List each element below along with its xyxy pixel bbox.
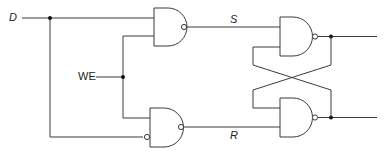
we-label: WE bbox=[78, 71, 96, 82]
d-label: D bbox=[9, 12, 17, 23]
circuit-diagram: D WE S R bbox=[0, 0, 388, 155]
nand-gate-latch-bottom bbox=[280, 98, 313, 137]
we-junction bbox=[121, 75, 125, 79]
circuit-schematic bbox=[0, 0, 388, 155]
inverter-bubble-latch-bottom bbox=[312, 115, 317, 120]
inverter-bubble-bottom bbox=[178, 124, 183, 129]
we-branch-wire bbox=[123, 36, 154, 118]
inverter-bubble-d-input bbox=[144, 134, 149, 139]
inverter-bubble-latch-top bbox=[312, 34, 317, 39]
s-label: S bbox=[230, 14, 237, 25]
r-label: R bbox=[230, 130, 238, 141]
d-junction bbox=[48, 16, 52, 20]
nand-gate-latch-top bbox=[280, 17, 313, 56]
inverter-bubble-top bbox=[181, 24, 186, 29]
